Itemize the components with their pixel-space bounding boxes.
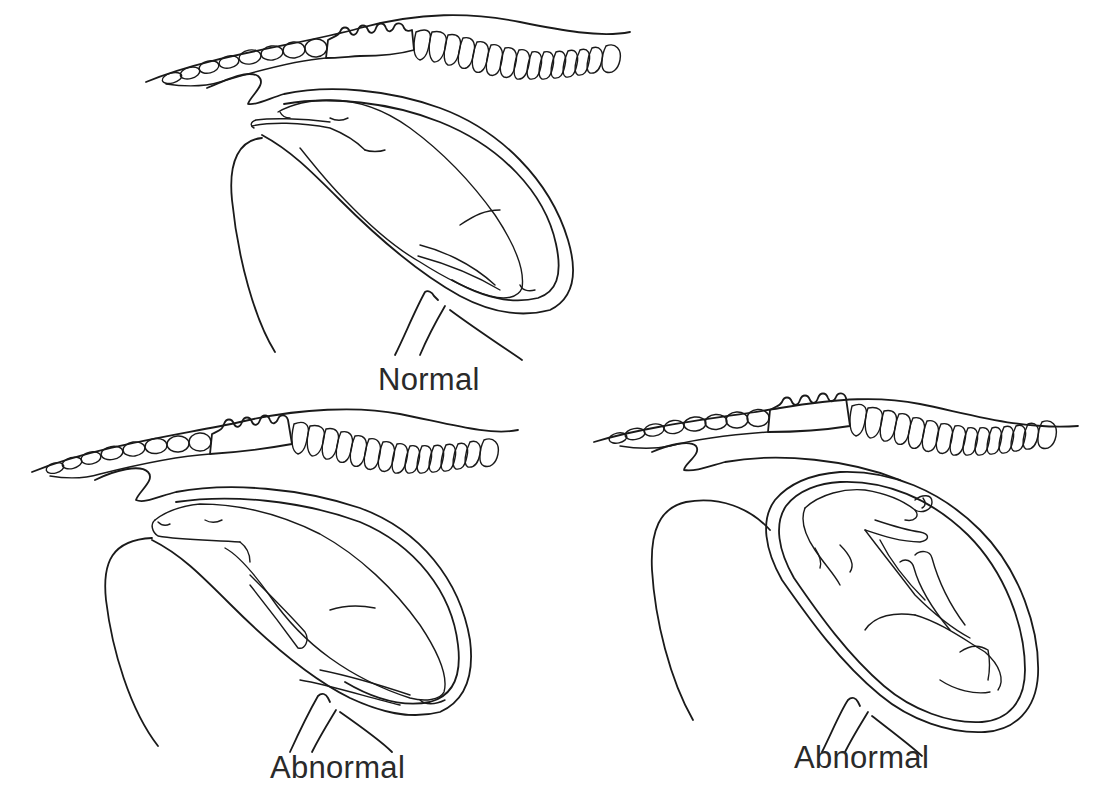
sacrum — [210, 415, 292, 454]
uterus-wall — [95, 468, 471, 715]
calf-abnormal-2 — [803, 490, 1001, 693]
vulva-canal — [395, 291, 438, 355]
back-line — [32, 409, 518, 472]
vertebrae — [292, 422, 498, 473]
panel-abnormal-2: Abnormal — [560, 390, 1100, 807]
sacrum — [326, 23, 414, 58]
uterus-horn — [652, 443, 900, 480]
normal-drawing — [0, 0, 1100, 400]
calf-abnormal-1 — [152, 504, 445, 705]
sacrum — [768, 393, 850, 432]
uterus-wall — [207, 74, 573, 314]
abnormal-1-drawing — [0, 400, 560, 807]
back-line — [146, 15, 630, 82]
calf-normal — [251, 100, 535, 298]
pelvis-outline — [231, 138, 275, 352]
back-line — [594, 399, 1078, 442]
panel-normal: Normal — [0, 0, 1100, 400]
panel-label-abnormal-2: Abnormal — [794, 740, 929, 776]
pelvis-outline — [105, 538, 158, 746]
vertebrae — [414, 30, 620, 79]
panel-label-abnormal-1: Abnormal — [270, 750, 405, 786]
uterus-wall — [766, 472, 1038, 732]
pelvis-outline — [652, 500, 770, 720]
tail-vertebrae — [608, 409, 769, 445]
vulva-canal — [290, 694, 330, 752]
panel-abnormal-1: Abnormal — [0, 400, 560, 807]
panel-label-normal: Normal — [378, 362, 480, 398]
